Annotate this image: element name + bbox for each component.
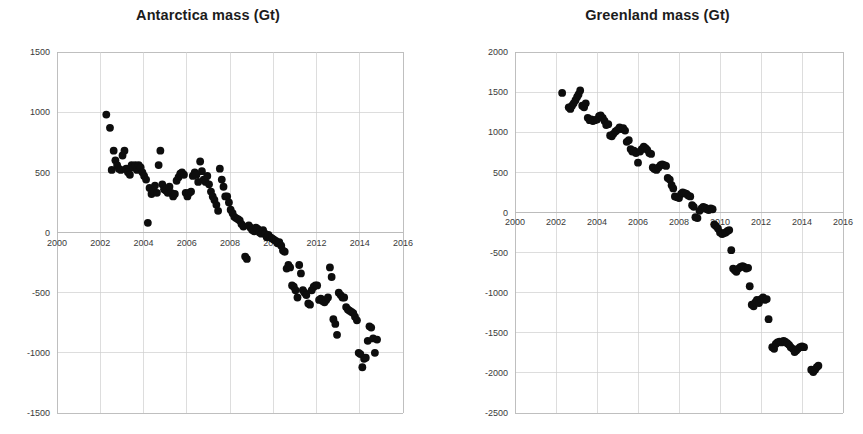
data-point [371,349,379,357]
data-point [196,158,204,166]
data-point [155,161,163,169]
data-point [815,362,823,370]
data-point [621,127,629,135]
data-point [358,363,366,371]
y-axis-tick-label: -500 [490,248,508,258]
data-point [144,219,152,227]
data-point [362,354,370,362]
y-axis-tick-label: 1000 [488,127,508,137]
y-axis-tick-label: 0 [45,228,50,238]
data-point [746,282,754,290]
data-point [153,189,161,197]
x-axis-tick-label: 2014 [792,217,812,227]
data-point [243,255,251,263]
data-point [367,324,375,332]
data-point [292,286,300,294]
data-point [725,226,733,234]
data-point [142,176,150,184]
data-point [800,343,808,351]
data-point [373,336,381,344]
data-point [216,165,224,173]
data-point [203,172,211,180]
x-axis-tick-label: 2000 [47,238,67,248]
y-axis-tick-label: -1000 [485,288,508,298]
y-axis-tick-label: 1000 [30,107,50,117]
y-axis-tick-label: -500 [32,288,50,298]
data-point [727,246,735,254]
y-axis-tick-label: 2000 [488,47,508,57]
data-point [313,282,321,290]
data-point [558,89,566,97]
greenland-chart-panel: Greenland mass (Gt) 2000150010005000-500… [432,0,863,434]
data-point [214,207,222,215]
data-point [156,147,164,155]
data-point [218,176,226,184]
y-axis-tick-label: 0 [503,208,508,218]
data-point [324,294,332,302]
data-point [295,261,303,269]
data-point [205,180,213,188]
x-axis-tick-label: 2002 [546,217,566,227]
x-axis-tick-label: 2002 [90,238,110,248]
data-point [151,182,159,190]
x-axis-tick-label: 2004 [587,217,607,227]
data-point [709,205,717,213]
scatter-plot-figure: Antarctica mass (Gt) 150010005000-500-10… [0,0,863,434]
data-point [331,320,339,328]
y-axis-tick-label: 500 [493,168,508,178]
y-axis-tick-label: -1000 [27,348,50,358]
antarctica-plot-area: 150010005000-500-1000-150020002002200420… [0,0,432,434]
data-point [625,136,633,144]
data-point [180,171,188,179]
data-point [187,188,195,196]
data-point [225,199,233,207]
x-axis-tick-label: 2014 [350,238,370,248]
data-point [102,111,110,119]
x-axis-tick-label: 2012 [751,217,771,227]
data-point [294,294,302,302]
data-point [110,147,118,155]
data-point [765,315,773,323]
y-axis-tick-label: -2500 [485,408,508,418]
data-point [353,316,361,324]
y-axis-tick-label: -1500 [485,328,508,338]
data-point [326,264,334,272]
data-point [328,273,336,281]
greenland-plot-area: 2000150010005000-500-1000-1500-2000-2500… [432,0,863,434]
x-axis-tick-label: 2016 [393,238,413,248]
data-point [220,183,228,191]
x-axis-tick-label: 2004 [133,238,153,248]
y-axis-tick-label: 500 [35,168,50,178]
x-axis-tick-label: 2008 [669,217,689,227]
data-point [662,162,670,170]
data-point [634,159,642,167]
data-point [669,184,677,192]
data-point [333,331,341,339]
data-point [297,270,305,278]
data-point [171,190,179,198]
data-point [582,99,590,107]
data-point [286,264,294,272]
x-axis-tick-label: 2006 [177,238,197,248]
data-point [281,248,289,256]
x-axis-tick-label: 2000 [505,217,525,227]
x-axis-tick-label: 2016 [833,217,853,227]
data-point [694,214,702,222]
x-axis-tick-label: 2008 [220,238,240,248]
y-axis-tick-label: 1500 [488,87,508,97]
data-point [744,264,752,272]
antarctica-chart-panel: Antarctica mass (Gt) 150010005000-500-10… [0,0,432,434]
data-point [763,295,771,303]
y-axis-tick-label: -2000 [485,368,508,378]
data-point [126,171,134,179]
x-axis-tick-label: 2006 [628,217,648,227]
data-point [121,147,129,155]
y-axis-tick-label: -1500 [27,408,50,418]
data-point [576,87,584,95]
data-point [686,193,694,201]
data-point [647,150,655,158]
x-axis-tick-label: 2012 [306,238,326,248]
y-axis-tick-label: 1500 [30,47,50,57]
data-point [306,301,314,309]
data-point [340,294,348,302]
